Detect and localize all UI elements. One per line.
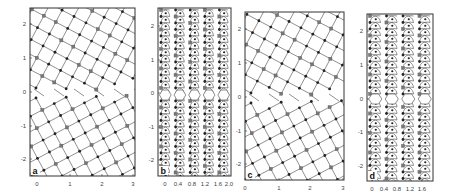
- x-tick-label: 0: [163, 181, 167, 187]
- panel-d: 00.40.81.21.6210-1-2d: [358, 14, 433, 192]
- lattice-content: [159, 8, 229, 179]
- panel-c: 0123210-1-2c: [236, 1, 351, 191]
- lattice-content: [368, 14, 431, 185]
- y-tick-label: 2: [238, 26, 242, 32]
- x-tick-label: 0: [35, 181, 39, 187]
- y-tick-label: 1: [360, 62, 364, 68]
- bonds: [24, 0, 144, 182]
- x-tick-label: 1: [277, 185, 281, 191]
- x-tick-label: 1.6: [214, 181, 223, 187]
- y-tick-label: 0: [23, 89, 27, 95]
- panel-frame: [30, 8, 135, 176]
- y-tick-label: 0: [238, 94, 242, 100]
- y-tick-label: 2: [151, 23, 155, 29]
- x-tick-label: 1.2: [406, 186, 415, 192]
- y-tick-label: 2: [23, 21, 27, 27]
- x-tick-label: 3: [341, 185, 345, 191]
- x-tick-label: 2: [308, 185, 312, 191]
- panel-letter: d: [370, 171, 376, 181]
- panel-a: 0123210-1-2a: [21, 0, 144, 187]
- lattice-figure: 0123210-1-2a 00.40.81.21.62.0210-1-2b 01…: [0, 0, 453, 196]
- x-tick-label: 0: [370, 186, 374, 192]
- x-tick-label: 0: [243, 185, 247, 191]
- x-tick-label: 1.6: [418, 186, 427, 192]
- lattice-content: [237, 1, 351, 189]
- y-tick-label: -1: [21, 123, 27, 129]
- y-tick-label: -1: [236, 128, 242, 134]
- panel-frame: [245, 12, 344, 180]
- y-tick-label: 1: [151, 57, 155, 63]
- x-tick-label: 0.4: [380, 186, 389, 192]
- y-tick-label: -2: [236, 161, 242, 167]
- x-tick-label: 1.2: [201, 181, 210, 187]
- x-tick-label: 0.8: [188, 181, 197, 187]
- panel-b: 00.40.81.21.62.0210-1-2b: [149, 8, 234, 187]
- y-tick-label: 0: [151, 90, 155, 96]
- x-tick-label: 2: [100, 181, 104, 187]
- lattice-content: [23, 0, 144, 184]
- x-tick-label: 3: [131, 181, 135, 187]
- y-tick-label: 1: [238, 60, 242, 66]
- y-tick-label: 1: [23, 55, 27, 61]
- panel-letter: b: [161, 166, 167, 176]
- y-tick-label: -1: [149, 124, 155, 130]
- x-tick-label: 2.0: [225, 181, 234, 187]
- y-tick-label: -2: [358, 163, 364, 169]
- y-tick-label: -2: [149, 157, 155, 163]
- y-tick-label: -2: [21, 156, 27, 162]
- y-tick-label: 0: [360, 96, 364, 102]
- axes: 0123210-1-2: [21, 21, 136, 187]
- x-tick-label: 0.8: [393, 186, 402, 192]
- panel-letter: c: [248, 170, 253, 180]
- x-tick-label: 0.4: [174, 181, 183, 187]
- y-tick-label: -1: [358, 129, 364, 135]
- y-tick-label: 2: [360, 28, 364, 34]
- x-tick-label: 1: [68, 181, 72, 187]
